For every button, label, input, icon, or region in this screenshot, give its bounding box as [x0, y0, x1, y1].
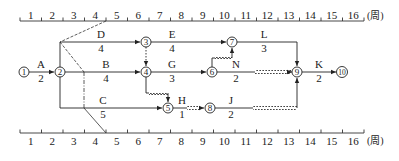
node-4: 4	[141, 67, 151, 77]
activity-l-duration: 3	[261, 42, 267, 54]
scale-week-label: 7	[157, 135, 163, 147]
activity-j-duration: 2	[228, 108, 234, 120]
scale-week-label: 10	[219, 9, 231, 21]
svg-text:10: 10	[338, 68, 346, 77]
scale-week-label: 2	[50, 135, 56, 147]
activity-g-name: G	[168, 58, 176, 70]
scale-week-label: 7	[157, 9, 163, 21]
svg-text:7: 7	[230, 37, 235, 47]
bottom-time-scale: 12345678910111213141516 (周)	[20, 130, 384, 148]
dummy-4-5-line	[146, 77, 149, 93]
scale-week-label: 12	[262, 135, 273, 147]
activity-h-name: H	[178, 94, 186, 106]
scale-week-label: 11	[240, 9, 251, 21]
scale-week-label: 9	[200, 9, 206, 21]
bottom-scale-ticks	[20, 130, 364, 134]
activity-c-duration: 5	[100, 108, 106, 120]
svg-text:4: 4	[144, 67, 149, 77]
node-3: 3	[141, 37, 151, 47]
node-10: 10	[337, 67, 348, 78]
scale-week-label: 3	[71, 135, 77, 147]
activity-k-name: K	[315, 58, 323, 70]
svg-text:1: 1	[22, 67, 27, 77]
dummy-6-7-line	[212, 58, 215, 67]
scale-week-label: 13	[283, 9, 295, 21]
node-8: 8	[205, 103, 215, 113]
activity-n-name: N	[232, 58, 240, 70]
bottom-scale-labels: 12345678910111213141516	[28, 135, 359, 147]
scale-week-label: 2	[50, 9, 56, 21]
activity-d-name: D	[97, 28, 105, 40]
activity-a-duration: 2	[38, 72, 44, 84]
activity-l-name: L	[261, 28, 268, 40]
activity-g-duration: 3	[169, 72, 175, 84]
activity-a-name: A	[37, 58, 45, 70]
scale-week-label: 6	[136, 9, 142, 21]
scale-week-label: 15	[326, 135, 338, 147]
activity-h-duration: 1	[179, 108, 185, 120]
node-2: 2	[55, 67, 65, 77]
activity-e-name: E	[169, 28, 176, 40]
activity-k-duration: 2	[316, 72, 322, 84]
svg-text:5: 5	[166, 103, 171, 113]
scale-week-label: 8	[179, 9, 185, 21]
scale-week-label: 1	[28, 135, 34, 147]
node-1: 1	[19, 67, 29, 77]
scale-week-label: 5	[114, 9, 120, 21]
scale-week-label: 14	[305, 135, 317, 147]
activity-l-line	[237, 42, 297, 66]
svg-text:3: 3	[144, 37, 149, 47]
scale-week-label: 15	[326, 9, 338, 21]
scale-week-label: 9	[200, 135, 206, 147]
network-diagram: 12345678910111213141516 (周) 123456789101…	[0, 0, 399, 161]
node-6: 6	[207, 67, 217, 77]
activity-e-duration: 4	[169, 42, 175, 54]
activity-n-duration: 2	[233, 72, 239, 84]
top-time-scale: 12345678910111213141516 (周)	[20, 9, 384, 22]
scale-week-label: 8	[179, 135, 185, 147]
activity-b-name: B	[102, 58, 109, 70]
scale-week-label: 4	[93, 9, 99, 21]
top-scale-labels: 12345678910111213141516	[28, 9, 359, 21]
scale-week-label: 13	[283, 135, 295, 147]
activity-c-name: C	[99, 94, 106, 106]
node-5: 5	[163, 103, 173, 113]
activity-j-name: J	[229, 94, 234, 106]
scale-week-label: 16	[348, 135, 360, 147]
scale-week-label: 12	[262, 9, 273, 21]
activity-d-duration: 4	[98, 42, 104, 54]
scale-week-label: 6	[136, 135, 142, 147]
node-9: 9	[292, 67, 302, 77]
scale-week-label: 10	[219, 135, 231, 147]
bottom-scale-unit: (周)	[367, 135, 384, 147]
scale-week-label: 16	[348, 9, 360, 21]
top-scale-unit: (周)	[367, 10, 384, 22]
node-7: 7	[227, 37, 237, 47]
activity-b-duration: 4	[103, 72, 109, 84]
svg-text:6: 6	[210, 67, 215, 77]
scale-week-label: 14	[305, 9, 317, 21]
scale-week-label: 4	[93, 135, 99, 147]
scale-week-label: 11	[240, 135, 251, 147]
svg-text:2: 2	[58, 67, 63, 77]
svg-text:9: 9	[295, 67, 300, 77]
scale-week-label: 5	[114, 135, 120, 147]
scale-week-label: 3	[71, 9, 77, 21]
svg-text:8: 8	[208, 103, 213, 113]
scale-week-label: 1	[28, 9, 34, 21]
